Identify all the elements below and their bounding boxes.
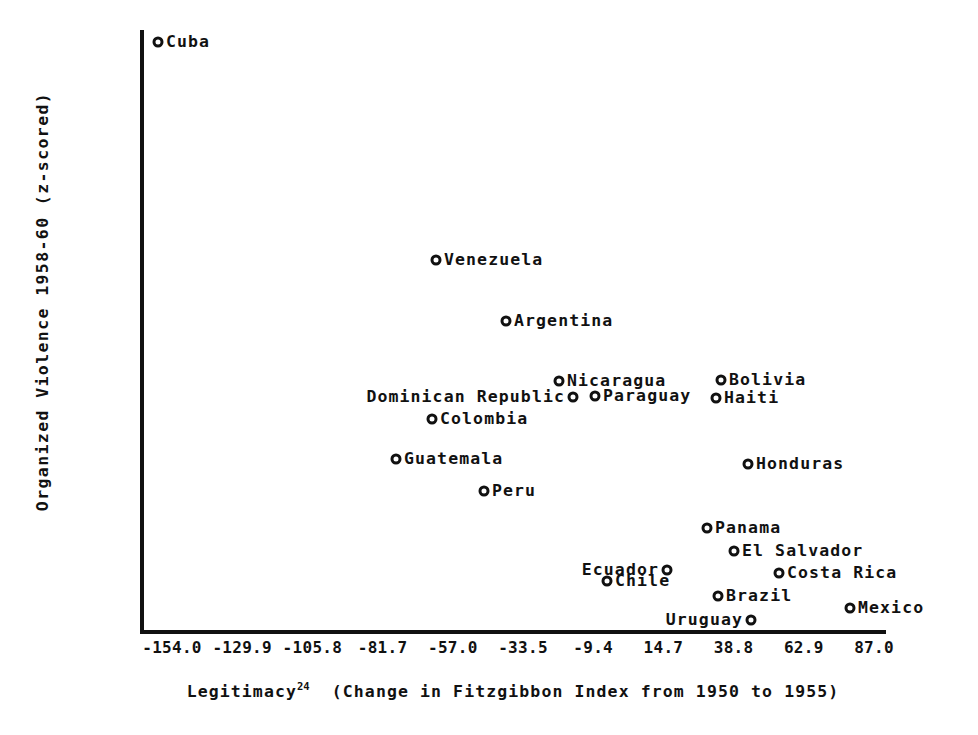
data-point-marker[interactable]: [590, 391, 601, 402]
data-point-marker[interactable]: [729, 546, 740, 557]
data-point-label: Chile: [615, 573, 670, 590]
data-point-marker[interactable]: [501, 316, 512, 327]
data-point-marker[interactable]: [743, 459, 754, 470]
data-point-label: Uruguay: [666, 612, 743, 629]
data-point-label: Dominican Republic: [366, 389, 565, 406]
data-point-marker[interactable]: [431, 255, 442, 266]
x-tick-label: -9.4: [573, 638, 613, 657]
x-tick-label: -105.8: [283, 638, 343, 657]
data-point-marker[interactable]: [845, 603, 856, 614]
data-point-marker[interactable]: [716, 375, 727, 386]
data-point-label: Panama: [715, 520, 781, 537]
data-point-marker[interactable]: [702, 523, 713, 534]
data-point-marker[interactable]: [713, 591, 724, 602]
data-point-marker[interactable]: [427, 414, 438, 425]
data-point-label: Mexico: [858, 600, 924, 617]
data-point-marker[interactable]: [479, 486, 490, 497]
data-point-label: Cuba: [166, 34, 210, 51]
x-axis-line: [140, 630, 886, 634]
scatter-plot-figure: Organized Violence 1958-60 (z-scored) 2.…: [0, 0, 978, 735]
data-point-label: Bolivia: [729, 372, 806, 389]
data-point-marker[interactable]: [554, 376, 565, 387]
x-tick-label: -81.7: [358, 638, 408, 657]
data-point-label: Guatemala: [404, 451, 503, 468]
x-tick-label: -33.5: [498, 638, 548, 657]
data-point-marker[interactable]: [774, 568, 785, 579]
x-axis-title-main: Legitimacy: [187, 682, 297, 701]
data-point-marker[interactable]: [391, 454, 402, 465]
x-tick-label: 62.9: [784, 638, 824, 657]
x-tick-label: 38.8: [714, 638, 754, 657]
data-point-marker[interactable]: [746, 615, 757, 626]
data-point-marker[interactable]: [568, 392, 579, 403]
data-point-label: Argentina: [514, 313, 613, 330]
data-point-label: Venezuela: [444, 252, 543, 269]
data-point-label: Brazil: [726, 588, 792, 605]
data-point-label: Haiti: [724, 390, 779, 407]
x-tick-label: -57.0: [428, 638, 478, 657]
x-tick-label: 87.0: [854, 638, 894, 657]
data-point-label: El Salvador: [742, 543, 863, 560]
y-axis-tick-labels: 2.9942.8282.6612.4952.3282.1621.9951.829…: [0, 0, 134, 735]
x-tick-label: 14.7: [644, 638, 684, 657]
data-point-marker[interactable]: [711, 393, 722, 404]
data-point-marker[interactable]: [153, 37, 164, 48]
x-tick-label: -129.9: [212, 638, 272, 657]
data-point-marker[interactable]: [602, 576, 613, 587]
data-point-label: Peru: [492, 483, 536, 500]
x-tick-label: -154.0: [142, 638, 202, 657]
data-point-label: Honduras: [756, 456, 844, 473]
y-axis-line: [140, 30, 144, 634]
data-point-label: Paraguay: [603, 388, 691, 405]
x-axis-title-rest: (Change in Fitzgibbon Index from 1950 to…: [332, 682, 840, 701]
x-axis-title: Legitimacy24 (Change in Fitzgibbon Index…: [140, 680, 886, 701]
x-axis-title-footnote: 24: [297, 680, 310, 692]
data-point-label: Colombia: [440, 411, 528, 428]
data-point-label: Costa Rica: [787, 565, 897, 582]
